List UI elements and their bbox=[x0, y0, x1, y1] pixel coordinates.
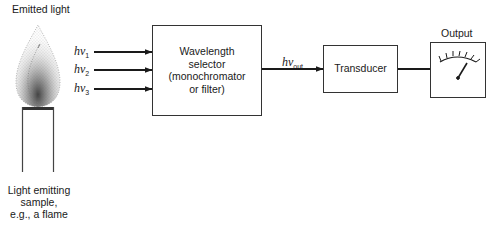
photon-symbol: hν bbox=[282, 55, 293, 69]
input-arrows bbox=[94, 52, 152, 89]
selector-label-line: or filter) bbox=[153, 83, 261, 96]
source-label: Light emitting sample, e.g., a flame bbox=[0, 184, 78, 220]
input-label-1: hν1 bbox=[74, 44, 89, 59]
photon-subscript: 2 bbox=[85, 70, 89, 77]
emitted-light-label: Emitted light bbox=[12, 3, 70, 15]
source-label-line: sample, bbox=[0, 196, 78, 208]
wavelength-selector-box: Wavelength selector (monochromator or fi… bbox=[152, 25, 262, 116]
photon-symbol: hν bbox=[74, 62, 85, 76]
photon-symbol: hν bbox=[74, 81, 85, 95]
photon-symbol: hν bbox=[74, 44, 85, 58]
selector-label-line: Wavelength bbox=[153, 45, 261, 58]
transducer-box: Transducer bbox=[323, 45, 398, 93]
photon-subscript: out bbox=[293, 63, 303, 70]
burner-stem bbox=[22, 107, 54, 172]
source-label-line: Light emitting bbox=[0, 184, 78, 196]
output-photon-label: hνout bbox=[282, 55, 303, 70]
photon-subscript: 3 bbox=[85, 89, 89, 96]
source-label-line: e.g., a flame bbox=[0, 208, 78, 220]
output-label: Output bbox=[441, 27, 473, 39]
input-label-2: hν2 bbox=[74, 62, 89, 77]
selector-label-line: selector bbox=[153, 58, 261, 71]
input-label-3: hν3 bbox=[74, 81, 89, 96]
output-meter-box bbox=[430, 42, 486, 98]
flame-icon bbox=[16, 25, 60, 107]
photon-subscript: 1 bbox=[85, 52, 89, 59]
transducer-label: Transducer bbox=[324, 62, 397, 75]
selector-label-line: (monochromator bbox=[153, 70, 261, 83]
